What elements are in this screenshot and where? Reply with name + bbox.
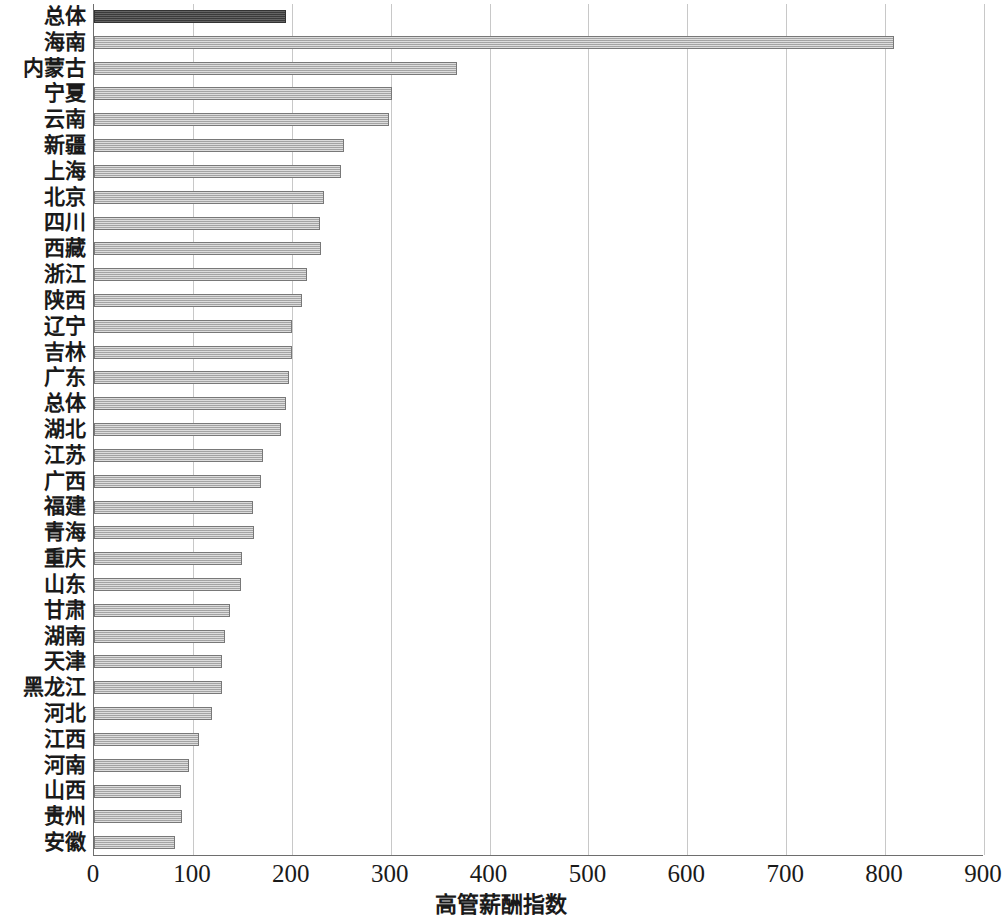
y-tick-label: 海南 xyxy=(44,32,86,53)
bar-row xyxy=(94,753,984,779)
x-tick-label: 800 xyxy=(865,860,903,888)
bar xyxy=(94,320,292,333)
bar xyxy=(94,139,344,152)
y-tick-label: 四川 xyxy=(44,212,86,233)
bar-row xyxy=(94,56,984,82)
bar xyxy=(94,526,254,539)
x-tick-label: 0 xyxy=(87,860,100,888)
bar-row xyxy=(94,469,984,495)
bar-row xyxy=(94,185,984,211)
bar-row xyxy=(94,340,984,366)
bar xyxy=(94,578,241,591)
y-tick-label: 广东 xyxy=(44,367,86,388)
y-tick-label: 山西 xyxy=(44,780,86,801)
y-tick-label: 总体 xyxy=(44,6,86,27)
x-tick-label: 400 xyxy=(470,860,508,888)
y-tick-label: 福建 xyxy=(44,496,86,517)
bar xyxy=(94,655,222,668)
bar-row xyxy=(94,701,984,727)
bar-row xyxy=(94,314,984,340)
bar xyxy=(94,836,175,849)
y-tick-label: 内蒙古 xyxy=(23,58,86,79)
bar xyxy=(94,449,263,462)
bar-row xyxy=(94,107,984,133)
bar xyxy=(94,604,230,617)
y-tick-label: 浙江 xyxy=(44,264,86,285)
bar xyxy=(94,475,261,488)
bar-row xyxy=(94,520,984,546)
bar xyxy=(94,36,894,49)
bar xyxy=(94,785,181,798)
y-tick-label: 北京 xyxy=(44,187,86,208)
bar xyxy=(94,371,289,384)
y-tick-label: 青海 xyxy=(44,522,86,543)
bar xyxy=(94,501,253,514)
bar-row xyxy=(94,804,984,830)
bar xyxy=(94,810,182,823)
bar xyxy=(94,733,199,746)
bar xyxy=(94,759,189,772)
bar-row xyxy=(94,417,984,443)
bar xyxy=(94,113,389,126)
bar xyxy=(94,62,457,75)
bar xyxy=(94,397,286,410)
bar xyxy=(94,10,286,23)
y-tick-label: 陕西 xyxy=(44,290,86,311)
bar xyxy=(94,191,324,204)
x-tick-label: 200 xyxy=(272,860,310,888)
bar xyxy=(94,217,320,230)
y-tick-label: 辽宁 xyxy=(44,316,86,337)
x-tick-label: 500 xyxy=(569,860,607,888)
x-tick-label: 100 xyxy=(173,860,211,888)
bar-row xyxy=(94,236,984,262)
bar-row xyxy=(94,624,984,650)
bar xyxy=(94,165,341,178)
bar xyxy=(94,242,321,255)
y-tick-label: 贵州 xyxy=(44,806,86,827)
x-tick-label: 600 xyxy=(668,860,706,888)
bar-row xyxy=(94,81,984,107)
y-tick-label: 山东 xyxy=(44,574,86,595)
bar-row xyxy=(94,546,984,572)
bar-row xyxy=(94,262,984,288)
bar-row xyxy=(94,598,984,624)
y-tick-label: 宁夏 xyxy=(44,83,86,104)
bar-row xyxy=(94,572,984,598)
y-tick-label: 吉林 xyxy=(44,342,86,363)
bar-row xyxy=(94,649,984,675)
y-tick-label: 西藏 xyxy=(44,238,86,259)
bar xyxy=(94,707,212,720)
bar-row xyxy=(94,443,984,469)
bar xyxy=(94,346,292,359)
y-tick-label: 上海 xyxy=(44,161,86,182)
bar-row xyxy=(94,288,984,314)
bar xyxy=(94,423,281,436)
bar-row xyxy=(94,4,984,30)
bar-row xyxy=(94,133,984,159)
y-tick-label: 天津 xyxy=(44,651,86,672)
bar-row xyxy=(94,779,984,805)
gridline xyxy=(984,4,985,855)
bar-row xyxy=(94,391,984,417)
x-tick-label: 300 xyxy=(371,860,409,888)
bar xyxy=(94,294,302,307)
bar xyxy=(94,268,307,281)
plot-area xyxy=(93,4,983,856)
bar xyxy=(94,552,242,565)
y-tick-label: 江苏 xyxy=(44,445,86,466)
bar xyxy=(94,681,222,694)
x-tick-label: 700 xyxy=(766,860,804,888)
y-tick-label: 湖北 xyxy=(44,419,86,440)
bar-row xyxy=(94,727,984,753)
y-tick-label: 总体 xyxy=(44,393,86,414)
y-tick-label: 甘肃 xyxy=(44,600,86,621)
bar-row xyxy=(94,211,984,237)
y-tick-label: 江西 xyxy=(44,729,86,750)
y-tick-label: 黑龙江 xyxy=(23,677,86,698)
x-tick-label: 900 xyxy=(964,860,1002,888)
y-tick-label: 河南 xyxy=(44,755,86,776)
bar-row xyxy=(94,159,984,185)
bars-container xyxy=(94,4,983,855)
bar-row xyxy=(94,365,984,391)
